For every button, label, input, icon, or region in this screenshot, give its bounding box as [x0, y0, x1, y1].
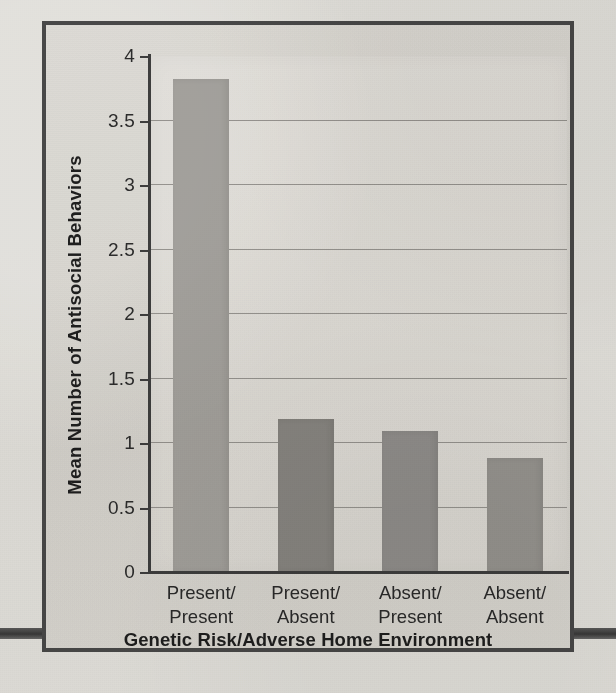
y-axis-tick-label: 1.5: [108, 368, 135, 390]
y-axis-tick: [140, 443, 149, 445]
bar: [278, 419, 334, 573]
bar: [173, 79, 229, 572]
figure-frame: 00.511.522.533.54 Present/PresentPresent…: [42, 21, 574, 652]
y-axis-tick: [140, 56, 149, 58]
y-axis-tick-label: 3.5: [108, 110, 135, 132]
y-axis-tick: [140, 185, 149, 187]
y-axis-tick-label: 1: [124, 432, 135, 454]
x-axis-line: [148, 571, 569, 574]
y-axis-tick: [140, 572, 149, 574]
bar-chart: 00.511.522.533.54 Present/PresentPresent…: [46, 25, 570, 648]
y-axis-tick-label: 3: [124, 174, 135, 196]
x-axis-tick-label: Present/Absent: [254, 581, 359, 628]
plot-area: [149, 56, 567, 572]
x-axis-tick-label-line: Present: [149, 605, 254, 629]
x-axis-tick-label: Absent/Present: [358, 581, 463, 628]
y-axis-title: Mean Number of Antisocial Behaviors: [64, 110, 86, 540]
y-axis-tick: [140, 314, 149, 316]
y-axis-tick: [140, 508, 149, 510]
bar: [382, 431, 438, 572]
x-axis-tick-label-line: Absent: [463, 605, 568, 629]
page-rule-left: [0, 628, 46, 639]
y-axis-tick: [140, 250, 149, 252]
x-axis-tick-label: Absent/Absent: [463, 581, 568, 628]
bar: [487, 458, 543, 572]
page-rule-right: [572, 628, 616, 639]
x-axis-tick-label: Present/Present: [149, 581, 254, 628]
x-axis-tick-label-line: Present/: [149, 581, 254, 605]
y-axis-tick-label: 2: [124, 303, 135, 325]
y-axis-tick-label: 4: [124, 45, 135, 67]
x-axis-title: Genetic Risk/Adverse Home Environment: [46, 629, 570, 651]
x-axis-tick-label-line: Present/: [254, 581, 359, 605]
y-axis-tick-label: 0.5: [108, 497, 135, 519]
y-axis-tick: [140, 379, 149, 381]
y-axis-tick-label: 2.5: [108, 239, 135, 261]
y-axis-tick: [140, 121, 149, 123]
y-axis-tick-label: 0: [124, 561, 135, 583]
x-axis-tick-label-line: Absent/: [463, 581, 568, 605]
x-axis-tick-label-line: Absent: [254, 605, 359, 629]
x-axis-tick-label-line: Absent/: [358, 581, 463, 605]
x-axis-tick-label-line: Present: [358, 605, 463, 629]
